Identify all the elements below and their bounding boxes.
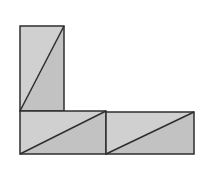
l-shape-diagram xyxy=(0,0,215,176)
bottom-left-rect xyxy=(20,111,106,154)
vertical-rect xyxy=(20,26,64,111)
bottom-right-rect xyxy=(106,112,194,154)
